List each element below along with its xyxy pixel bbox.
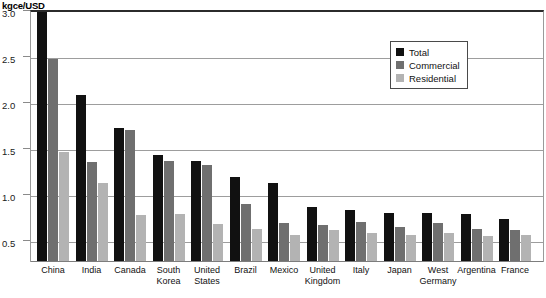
- bar-commercial: [356, 222, 366, 262]
- bar-group: [37, 12, 69, 262]
- y-tick-label-2-5: 2.5: [2, 55, 15, 65]
- y-tick-mark-1-0: [23, 194, 30, 195]
- bar-group: [76, 12, 108, 262]
- bar-commercial: [87, 162, 97, 262]
- legend-label-total: Total: [409, 47, 429, 58]
- y-tick-label-3-0: 3.0: [2, 9, 15, 19]
- y-tick-label-2-0: 2.0: [2, 101, 15, 111]
- y-tick-mark-2-5: [23, 56, 30, 57]
- bar-total: [307, 207, 317, 262]
- legend-item-commercial: Commercial: [396, 59, 460, 71]
- commercial-swatch: [396, 61, 404, 69]
- bar-total: [499, 219, 509, 262]
- y-tick-mark-3-0: [23, 10, 30, 11]
- bar-group: [499, 12, 531, 262]
- y-tick-label-1-5: 1.5: [2, 147, 15, 157]
- bar-total: [191, 161, 201, 262]
- x-axis-line: [31, 261, 543, 262]
- bar-commercial: [164, 161, 174, 262]
- bar-group: [191, 12, 223, 262]
- bar-residential: [367, 233, 377, 262]
- bar-group: [230, 12, 262, 262]
- bar-commercial: [279, 223, 289, 262]
- bar-group: [114, 12, 146, 262]
- bar-total: [37, 10, 47, 262]
- bar-total: [230, 177, 240, 262]
- bar-commercial: [48, 59, 58, 262]
- bar-total: [114, 128, 124, 262]
- y-tick-mark-1-5: [23, 148, 30, 149]
- bar-commercial: [433, 223, 443, 262]
- bar-total: [422, 213, 432, 262]
- bar-commercial: [241, 204, 251, 262]
- bar-residential: [290, 235, 300, 262]
- bar-total: [268, 183, 278, 262]
- bar-total: [461, 214, 471, 262]
- y-tick-label-0-5: 0.5: [2, 239, 15, 249]
- legend-item-residential: Residential: [396, 72, 460, 84]
- y-tick-mark-2-0: [23, 102, 30, 103]
- chart-legend: Total Commercial Residential: [390, 41, 468, 89]
- bar-total: [76, 95, 86, 262]
- chart-container: kgce/USD 0.51.01.52.02.53.0 ChinaIndiaCa…: [0, 0, 546, 298]
- legend-label-commercial: Commercial: [409, 60, 460, 71]
- bar-residential: [329, 230, 339, 262]
- bar-group: [307, 12, 339, 262]
- residential-swatch: [396, 74, 404, 82]
- bar-commercial: [395, 227, 405, 262]
- y-tick-label-1-0: 1.0: [2, 193, 15, 203]
- bar-residential: [136, 215, 146, 262]
- bar-commercial: [125, 130, 135, 262]
- bar-total: [384, 213, 394, 262]
- x-tick-label: France: [492, 265, 538, 276]
- bar-commercial: [318, 225, 328, 262]
- bar-residential: [406, 235, 416, 262]
- bar-total: [153, 155, 163, 262]
- y-tick-mark-0-5: [23, 240, 30, 241]
- bar-commercial: [202, 165, 212, 262]
- bar-residential: [59, 152, 69, 262]
- bar-group: [268, 12, 300, 262]
- bar-residential: [483, 236, 493, 262]
- bar-total: [345, 210, 355, 262]
- legend-item-total: Total: [396, 46, 460, 58]
- bar-commercial: [510, 230, 520, 262]
- bar-residential: [98, 183, 108, 262]
- total-swatch: [396, 48, 404, 56]
- bar-residential: [521, 235, 531, 262]
- bar-group: [345, 12, 377, 262]
- bar-commercial: [472, 229, 482, 262]
- legend-label-residential: Residential: [409, 73, 456, 84]
- bar-group: [153, 12, 185, 262]
- bar-residential: [213, 224, 223, 262]
- bar-residential: [252, 229, 262, 262]
- bar-residential: [444, 233, 454, 262]
- bar-residential: [175, 214, 185, 262]
